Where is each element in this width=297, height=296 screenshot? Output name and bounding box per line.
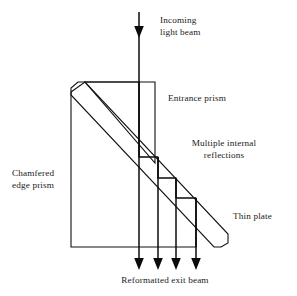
internal-ray-paths	[158, 157, 196, 247]
exit-beam-arrowhead-4	[191, 258, 201, 270]
reformatted-exit-beams	[134, 247, 201, 270]
incoming-light-beam	[134, 12, 144, 247]
chamfered-edge-prism-body	[71, 82, 196, 247]
chamfered-prism-label-line1: Chamfered	[12, 168, 54, 178]
exit-beam-label: Reformatted exit beam	[121, 275, 208, 285]
multiple-reflections-label-line1: Multiple internal	[192, 138, 257, 148]
thin-plate-region	[71, 82, 228, 247]
incoming-beam-label-line2: light beam	[160, 27, 201, 37]
entrance-prism-region	[85, 82, 155, 163]
entrance-prism-label: Entrance prism	[168, 93, 226, 103]
incoming-beam-arrowhead	[134, 26, 144, 38]
exit-beam-arrowhead-2	[153, 258, 163, 270]
diagram-root: Incoming light beam Entrance prism Multi…	[0, 0, 297, 296]
internal-reflection-steps	[139, 82, 196, 247]
exit-beam-arrowhead-1	[134, 258, 144, 270]
exit-beam-arrowhead-3	[171, 258, 181, 270]
thin-plate-label: Thin plate	[233, 211, 272, 221]
multiple-reflections-label-line2: reflections	[204, 150, 245, 160]
incoming-beam-label-line1: Incoming	[160, 15, 197, 25]
chamfered-prism-label-line2: edge prism	[12, 180, 54, 190]
prism-diagram-svg: Incoming light beam Entrance prism Multi…	[0, 0, 297, 296]
